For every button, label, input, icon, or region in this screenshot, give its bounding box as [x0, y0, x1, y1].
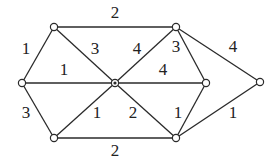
node-G — [50, 134, 57, 141]
edge-weight-label: 1 — [22, 39, 31, 58]
weighted-graph: 21343414312121 — [0, 0, 280, 166]
node-A — [50, 23, 57, 30]
edge-weight-label: 4 — [159, 60, 168, 79]
node-C — [18, 79, 25, 86]
edge-weight-label: 3 — [22, 103, 31, 122]
edge-B-E — [176, 27, 206, 83]
node-E — [202, 79, 209, 86]
edge-D-G — [54, 83, 115, 138]
edge-weight-label: 1 — [60, 60, 69, 79]
edge-weight-label: 4 — [133, 39, 142, 58]
edge-weight-label: 1 — [93, 103, 102, 122]
edge-weight-label: 1 — [174, 103, 183, 122]
node-F — [256, 78, 263, 85]
edge-weight-label: 2 — [111, 3, 120, 22]
edge-B-F — [176, 27, 260, 82]
edge-weight-label: 1 — [229, 103, 238, 122]
edge-weight-label: 3 — [172, 37, 181, 56]
node-H — [172, 134, 179, 141]
edge-H-F — [176, 82, 260, 138]
edge-weight-label: 3 — [91, 39, 100, 58]
edge-D-H — [115, 83, 176, 138]
edge-weight-label: 2 — [111, 141, 120, 160]
edge-weight-label: 2 — [129, 103, 138, 122]
node-B — [172, 23, 179, 30]
node-center-dot — [113, 81, 116, 84]
edge-weight-label: 4 — [229, 37, 238, 56]
